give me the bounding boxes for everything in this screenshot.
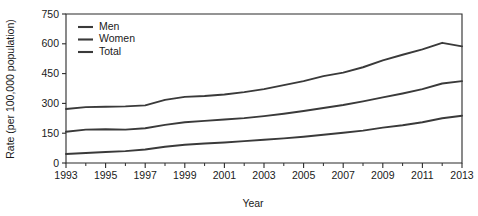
chart-figure: 0150300450600750 19931995199719992001200…: [0, 0, 478, 216]
legend-label-total: Total: [99, 45, 121, 57]
x-tick-label: 2005: [292, 169, 316, 181]
x-tick-label: 2007: [332, 169, 356, 181]
x-tick-label: 2009: [371, 169, 395, 181]
y-tick-label: 450: [41, 67, 59, 79]
x-tick-label: 1995: [94, 169, 118, 181]
x-axis-title: Year: [242, 197, 264, 209]
y-tick-label: 300: [41, 97, 59, 109]
y-tick-label: 0: [53, 157, 59, 169]
y-tick-label: 150: [41, 127, 59, 139]
x-tick-label: 1997: [134, 169, 158, 181]
line-chart: 0150300450600750 19931995199719992001200…: [0, 0, 478, 216]
x-tick-label: 1993: [54, 169, 78, 181]
legend-label-men: Men: [99, 20, 120, 32]
x-tick-label: 2011: [411, 169, 434, 181]
x-tick-label: 1999: [173, 169, 197, 181]
y-tick-label: 750: [41, 8, 59, 20]
legend-label-women: Women: [99, 32, 135, 44]
y-tick-label: 600: [41, 37, 59, 49]
x-tick-label: 2013: [450, 169, 474, 181]
x-tick-label: 2001: [213, 169, 237, 181]
y-axis-title: Rate (per 100,000 population): [4, 19, 16, 159]
x-tick-label: 2003: [252, 169, 276, 181]
